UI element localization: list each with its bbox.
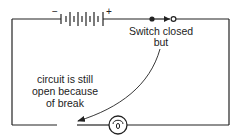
switch-label-line2: but [154, 36, 169, 48]
break-label-line3: of break [46, 97, 85, 109]
circuit-diagram: − + Switch closed but circuit is still o… [0, 0, 237, 136]
switch-icon [149, 16, 176, 22]
break-label-line1: circuit is still [37, 73, 93, 85]
battery-positive-label: + [106, 6, 112, 17]
bulb-icon [109, 116, 127, 134]
break-label-line2: open because [32, 85, 98, 97]
battery-icon [61, 12, 103, 26]
battery-negative-label: − [52, 6, 58, 17]
